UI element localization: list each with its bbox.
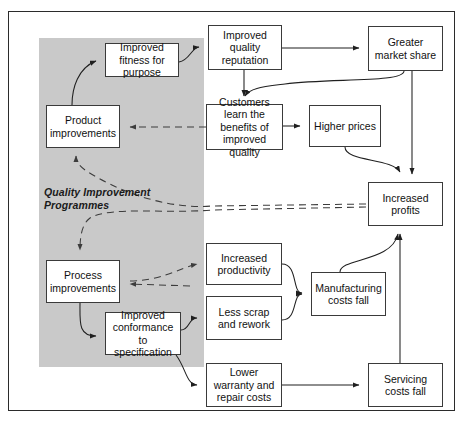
region-label-line-1: Quality: [44, 186, 80, 198]
edge-market-share-to-customers: [245, 71, 404, 96]
edge-conformance-to-less-scrap: [181, 318, 197, 330]
node-label: Improved quality reputation: [212, 29, 278, 66]
node-label: Improved fitness for purpose: [109, 41, 175, 78]
node-label: Increased profits: [372, 192, 439, 217]
node-improved-fitness[interactable]: Improved fitness for purpose: [105, 43, 179, 77]
region-label-quality-improvement-programmes: Quality Improvement Programmes: [44, 186, 154, 212]
edge-manufacturing-to-profits: [340, 234, 398, 272]
edge-conformance-to-lower-warranty: [176, 355, 197, 385]
node-higher-prices[interactable]: Higher prices: [309, 105, 381, 147]
region-label-line-3: Programmes: [44, 199, 109, 211]
edge-fitness-to-reputation: [179, 47, 199, 62]
node-improved-conformance[interactable]: Improved conformance to specification: [105, 312, 181, 355]
region-label-line-2: Improvement: [83, 186, 150, 198]
node-product-improvements[interactable]: Product improvements: [46, 105, 120, 148]
node-increased-productivity[interactable]: Increased productivity: [206, 243, 282, 285]
node-label: Increased productivity: [210, 252, 278, 277]
node-label: Product improvements: [50, 114, 116, 139]
edge-higher-prices-to-profits: [345, 147, 400, 172]
node-label: Servicing costs fall: [372, 373, 439, 398]
edge-feedback-into-process-dashed: [130, 284, 190, 286]
node-less-scrap[interactable]: Less scrap and rework: [206, 296, 282, 340]
node-increased-profits[interactable]: Increased profits: [368, 182, 443, 226]
node-lower-warranty[interactable]: Lower warranty and repair costs: [206, 363, 282, 407]
node-greater-market-share[interactable]: Greater market share: [368, 26, 443, 71]
node-label: Process improvements: [50, 269, 116, 294]
node-customers-learn[interactable]: Customers learn the benefits of improved…: [206, 104, 283, 150]
node-label: Greater market share: [372, 36, 439, 61]
node-label: Manufacturing costs fall: [315, 282, 382, 307]
diagram-canvas: Improved fitness for purpose Product imp…: [0, 0, 467, 429]
node-servicing-costs[interactable]: Servicing costs fall: [368, 363, 443, 407]
node-manufacturing-costs[interactable]: Manufacturing costs fall: [311, 272, 386, 316]
node-label: Improved conformance to specification: [109, 309, 177, 359]
edge-productivity-to-manufacturing: [282, 264, 302, 293]
node-quality-reputation[interactable]: Improved quality reputation: [208, 25, 282, 70]
edge-product-to-fitness: [72, 61, 96, 105]
node-process-improvements[interactable]: Process improvements: [46, 260, 120, 303]
node-label: Customers learn the benefits of improved…: [210, 96, 279, 158]
edge-process-to-productivity-dashed: [130, 264, 197, 281]
edge-less-scrap-to-manufacturing: [282, 294, 302, 320]
node-label: Lower warranty and repair costs: [210, 366, 278, 403]
node-label: Less scrap and rework: [210, 306, 278, 331]
edge-process-to-conformance: [80, 303, 96, 336]
node-label: Higher prices: [314, 120, 376, 132]
